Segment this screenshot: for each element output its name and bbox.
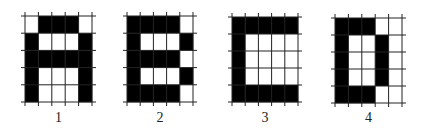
grid-cell <box>362 18 376 35</box>
letter-grid-figure: 1 2 3 4 <box>0 0 430 136</box>
grid-cell <box>335 35 349 52</box>
grid-cell <box>375 69 389 86</box>
grid-cell <box>348 86 362 103</box>
grid-cell <box>375 86 389 103</box>
grid-cell <box>389 35 403 52</box>
grid-cell <box>389 18 403 35</box>
grid-cell <box>389 69 403 86</box>
grid-cell <box>362 35 376 52</box>
grid-cell <box>348 69 362 86</box>
grid-cell <box>375 52 389 69</box>
grid-cell <box>375 35 389 52</box>
grid-cell <box>348 35 362 52</box>
grid-cell <box>348 18 362 35</box>
grid-cell <box>375 18 389 35</box>
grid-panel-4: 4 <box>0 0 100 136</box>
grid-cell <box>335 18 349 35</box>
grid-cell <box>348 52 362 69</box>
grid-cell <box>389 52 403 69</box>
grid-cell <box>335 86 349 103</box>
grid-cell <box>362 69 376 86</box>
grid-cell <box>335 52 349 69</box>
grid-cell <box>362 86 376 103</box>
grid-cell <box>362 52 376 69</box>
panel-label-4: 4 <box>359 110 379 126</box>
grid-cell <box>389 86 403 103</box>
grid-cell <box>335 69 349 86</box>
